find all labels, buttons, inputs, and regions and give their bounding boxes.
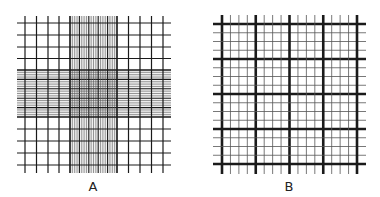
panel-label-a: A — [89, 180, 98, 193]
figure-canvas — [0, 0, 380, 197]
grid-a — [17, 16, 171, 173]
panel-label-b: B — [285, 180, 294, 193]
grid-b — [213, 15, 366, 174]
